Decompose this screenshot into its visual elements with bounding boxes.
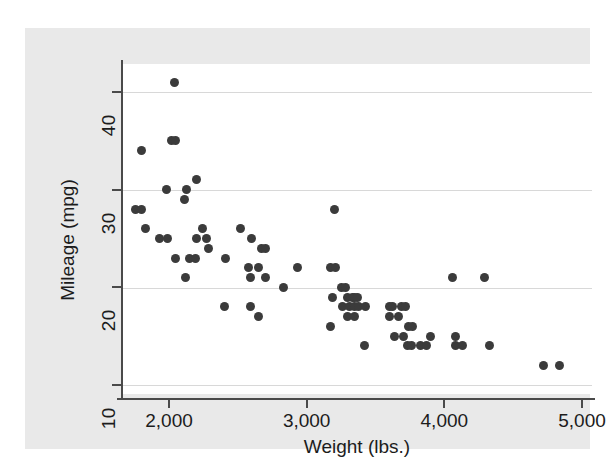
x-axis-tick <box>306 399 308 408</box>
x-axis-title: Weight (lbs.) <box>122 436 592 458</box>
scatter-point <box>247 234 256 243</box>
scatter-point <box>326 322 335 331</box>
scatter-point <box>202 234 211 243</box>
scatter-point <box>385 312 394 321</box>
scatter-point <box>221 254 230 263</box>
scatter-point <box>192 234 201 243</box>
y-axis-tick <box>112 189 121 191</box>
scatter-point <box>261 273 270 282</box>
page-canvas: 10203040 2,0003,0004,0005,000 Mileage (m… <box>0 0 610 476</box>
y-axis-tick-label: 40 <box>98 114 120 136</box>
stata-graph-region: 10203040 2,0003,0004,0005,000 Mileage (m… <box>25 28 590 449</box>
scatter-point <box>388 302 397 311</box>
x-axis-tick-label: 5,000 <box>558 410 606 432</box>
gridline-20 <box>122 288 592 289</box>
scatter-point <box>220 302 229 311</box>
scatter-point <box>191 254 200 263</box>
scatter-point <box>293 263 302 272</box>
x-axis-tick-label: 4,000 <box>421 410 469 432</box>
scatter-point <box>141 224 150 233</box>
scatter-point <box>394 312 403 321</box>
scatter-point <box>350 312 359 321</box>
scatter-point <box>192 175 201 184</box>
scatter-point <box>279 283 288 292</box>
scatter-point <box>198 224 207 233</box>
scatter-point <box>426 332 435 341</box>
scatter-point <box>162 185 171 194</box>
gridline-40 <box>122 92 592 93</box>
x-axis-tick <box>581 399 583 408</box>
gridline-10 <box>122 385 592 386</box>
y-axis-tick <box>112 286 121 288</box>
scatter-point <box>254 263 263 272</box>
scatter-point <box>361 302 370 311</box>
y-axis-tick <box>112 91 121 93</box>
scatter-point <box>163 234 172 243</box>
y-axis-tick-label: 10 <box>98 407 120 429</box>
x-axis-tick-label: 3,000 <box>283 410 331 432</box>
scatter-point <box>171 254 180 263</box>
scatter-point <box>353 293 362 302</box>
plot-area <box>122 64 592 394</box>
y-axis-tick-label: 20 <box>98 309 120 331</box>
scatter-point <box>261 244 270 253</box>
scatter-point <box>204 244 213 253</box>
scatter-point <box>485 341 494 350</box>
scatter-point <box>458 341 467 350</box>
scatter-point <box>254 312 263 321</box>
scatter-point <box>244 263 253 272</box>
y-axis-title: Mileage (mpg) <box>57 140 79 340</box>
scatter-point <box>451 332 460 341</box>
scatter-point <box>480 273 489 282</box>
x-axis-line <box>117 398 595 400</box>
scatter-point <box>407 341 416 350</box>
scatter-point <box>137 146 146 155</box>
scatter-point <box>401 302 410 311</box>
scatter-point <box>180 195 189 204</box>
scatter-point <box>137 205 146 214</box>
x-axis-tick <box>168 399 170 408</box>
scatter-point <box>539 361 548 370</box>
scatter-point <box>181 273 190 282</box>
scatter-point <box>246 273 255 282</box>
scatter-point <box>360 341 369 350</box>
scatter-point <box>236 224 245 233</box>
scatter-point <box>555 361 564 370</box>
scatter-point <box>182 185 191 194</box>
y-axis-tick <box>112 384 121 386</box>
scatter-point <box>330 205 339 214</box>
scatter-point <box>422 341 431 350</box>
scatter-point <box>171 136 180 145</box>
x-axis-tick-label: 2,000 <box>145 410 193 432</box>
scatter-point <box>246 302 255 311</box>
scatter-point <box>399 332 408 341</box>
y-axis-line <box>121 60 123 400</box>
scatter-point <box>390 332 399 341</box>
scatter-point <box>341 283 350 292</box>
scatter-point <box>328 293 337 302</box>
scatter-point <box>408 322 417 331</box>
x-axis-tick <box>443 399 445 408</box>
gridline-30 <box>122 190 592 191</box>
scatter-point <box>331 263 340 272</box>
y-axis-tick-label: 30 <box>98 212 120 234</box>
scatter-point <box>448 273 457 282</box>
scatter-point <box>170 78 179 87</box>
